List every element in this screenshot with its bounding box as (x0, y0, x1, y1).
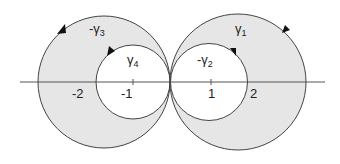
label-neg-gamma3: -γ3 (89, 22, 105, 38)
contour-figure (0, 0, 340, 164)
tick-label-minus-2: -2 (72, 87, 84, 100)
gamma1-arrow-icon (282, 25, 290, 33)
tick-label-2: 2 (250, 87, 257, 100)
tick-label-minus-1: -1 (121, 87, 133, 100)
label-gamma4: γ4 (127, 53, 139, 69)
tick-label-1: 1 (208, 87, 215, 100)
label-gamma1: γ1 (235, 22, 247, 38)
label-neg-gamma2: -γ2 (197, 53, 213, 69)
gamma3-arrow-icon (57, 24, 66, 34)
